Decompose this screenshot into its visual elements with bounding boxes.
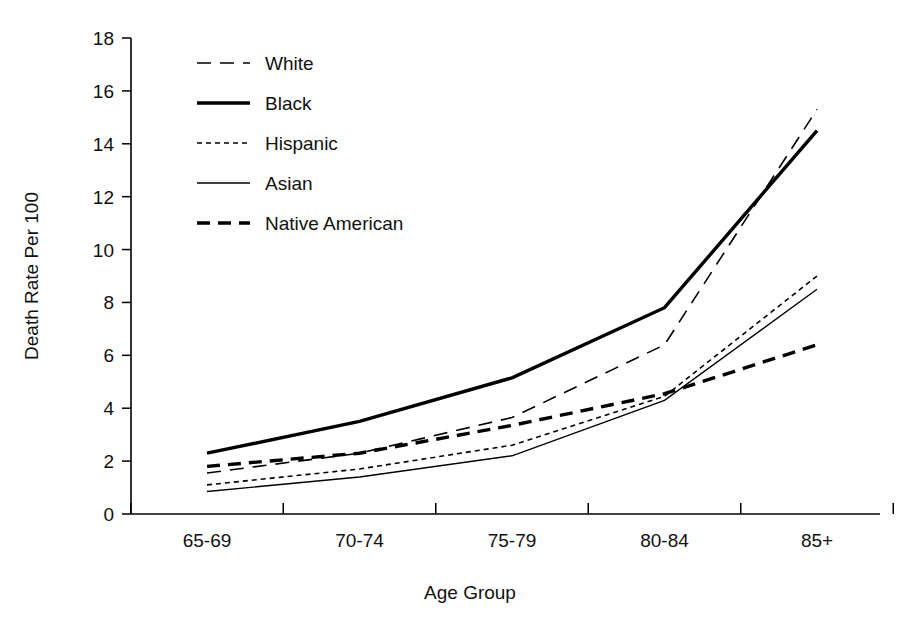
y-axis-title: Death Rate Per 100 [21,192,42,360]
x-tick-label: 75-79 [488,530,537,551]
y-tick-label: 6 [103,345,114,366]
x-tick-label: 85+ [801,530,833,551]
legend-label-asian: Asian [265,173,313,194]
line-chart: 024681012141618 65-6970-7475-7980-8485+ … [0,0,910,628]
x-tick-label: 80-84 [640,530,689,551]
y-tick-label: 4 [103,398,114,419]
series-group [207,109,817,491]
series-line-white [207,109,817,473]
legend-label-white: White [265,53,314,74]
y-tick-label: 0 [103,504,114,525]
axis-group [122,38,893,514]
x-axis-title: Age Group [424,582,516,603]
legend-label-hispanic: Hispanic [265,133,338,154]
legend-label-black: Black [265,93,312,114]
y-tick-label: 10 [93,240,114,261]
y-axis-ticks [122,38,131,514]
legend-label-native-american: Native American [265,213,403,234]
series-line-native-american [207,345,817,467]
x-tick-label: 70-74 [335,530,384,551]
y-tick-label: 14 [93,134,115,155]
chart-figure: 024681012141618 65-6970-7475-7980-8485+ … [0,0,910,628]
y-tick-label: 18 [93,28,114,49]
x-tick-label: 65-69 [183,530,232,551]
series-line-hispanic [207,276,817,485]
y-axis-tick-labels: 024681012141618 [93,28,115,525]
x-axis-tick-labels: 65-6970-7475-7980-8485+ [183,530,833,551]
y-tick-label: 8 [103,292,114,313]
y-tick-label: 16 [93,81,114,102]
x-axis-ticks [131,503,894,514]
y-tick-label: 2 [103,451,114,472]
chart-legend: WhiteBlackHispanicAsianNative American [197,53,403,234]
y-tick-label: 12 [93,187,114,208]
